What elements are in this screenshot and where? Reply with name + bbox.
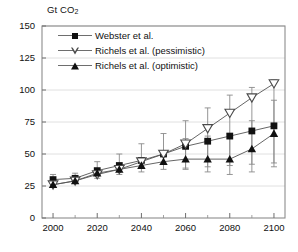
y-tick-label: 50 — [5, 148, 35, 159]
x-tick-label: 2080 — [210, 222, 250, 233]
legend-item-richels-pessimistic: Richels et al. (pessimistic) — [58, 43, 205, 58]
legend-item-richels-optimistic: Richels et al. (optimistic) — [58, 58, 205, 73]
y-tick-label: 150 — [5, 20, 35, 31]
legend-key-filled-square-icon — [58, 29, 92, 43]
y-tick-label: 75 — [5, 116, 35, 127]
legend-label-richels-pessimistic: Richels et al. (pessimistic) — [92, 45, 205, 56]
x-tick-label: 2000 — [33, 222, 73, 233]
legend-key-filled-up-triangle-icon — [58, 59, 92, 73]
chart-legend: Webster et al. Richels et al. (pessimist… — [58, 28, 205, 73]
x-tick-label: 2040 — [121, 222, 161, 233]
x-tick-label: 2100 — [254, 222, 294, 233]
y-tick-label: 0 — [5, 212, 35, 223]
y-tick-label: 125 — [5, 52, 35, 63]
y-tick-label: 25 — [5, 180, 35, 191]
legend-key-open-down-triangle-icon — [58, 44, 92, 58]
chart-figure: Gt CO2 Webster et al. Richels et al. (pe… — [0, 0, 298, 252]
y-tick-label: 100 — [5, 84, 35, 95]
x-tick-label: 2060 — [166, 222, 206, 233]
x-tick-label: 2020 — [77, 222, 117, 233]
legend-label-richels-optimistic: Richels et al. (optimistic) — [92, 60, 198, 71]
legend-label-webster: Webster et al. — [92, 30, 153, 41]
legend-item-webster: Webster et al. — [58, 28, 205, 43]
